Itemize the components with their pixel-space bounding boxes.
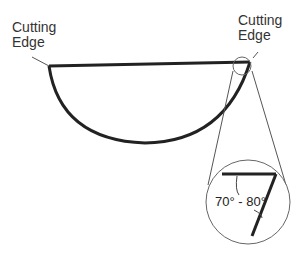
left-label-line1: Cutting xyxy=(12,20,56,35)
diagram-canvas: Cutting Edge Cutting Edge 70° - 80° xyxy=(0,0,304,270)
right-label-line1: Cutting xyxy=(238,13,282,28)
right-leader-line xyxy=(253,52,258,58)
angle-label: 70° - 80° xyxy=(215,194,266,209)
right-label-line2: Edge xyxy=(238,28,282,43)
right-cutting-edge-label: Cutting Edge xyxy=(238,13,282,43)
left-label-line2: Edge xyxy=(12,35,56,50)
blade-top-edge xyxy=(49,62,250,66)
left-cutting-edge-label: Cutting Edge xyxy=(12,20,56,50)
left-leader-line xyxy=(32,57,49,66)
